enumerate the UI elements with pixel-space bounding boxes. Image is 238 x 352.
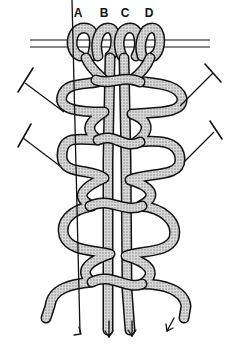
cord-label-d: D xyxy=(145,6,154,20)
macrame-knot-diagram: A B C D xyxy=(0,0,238,352)
cord-label-a: A xyxy=(74,6,83,20)
cord-label-c: C xyxy=(121,6,130,20)
cord-labels: A B C D xyxy=(74,6,154,20)
cord-label-b: B xyxy=(100,6,109,20)
right-working-cord xyxy=(126,58,186,318)
arrow-down-right-outer xyxy=(166,318,174,331)
pin-left-top xyxy=(18,68,64,112)
mounting-knots xyxy=(72,28,160,56)
pin-right-top xyxy=(180,64,221,106)
pin-right-bottom xyxy=(184,121,222,162)
pin-left-bottom xyxy=(18,124,60,166)
